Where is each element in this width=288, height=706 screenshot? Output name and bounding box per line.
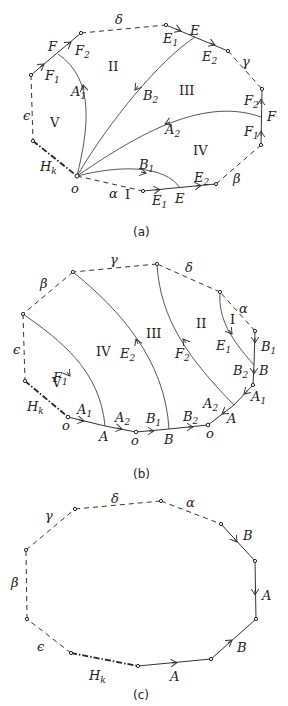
curve-b2 (77, 37, 195, 176)
curve-a2 (77, 111, 261, 176)
caption-b: (b) (133, 467, 150, 481)
vertex (136, 664, 139, 667)
diagram-b: I II III IV V α β γ δ ϵ Hk o o o A1 A A2… (13, 252, 276, 481)
region-label: I (125, 187, 130, 202)
edge-label: E2 (193, 170, 210, 187)
edge-label: B (242, 528, 253, 543)
vertex (214, 182, 217, 185)
delta-label: δ (111, 491, 119, 506)
edge-label: E (189, 23, 200, 38)
vertex (29, 73, 32, 76)
region-label: IV (96, 344, 111, 359)
arrow-f1 (67, 372, 70, 376)
arrow-f2 (183, 339, 186, 343)
vertex-o-label: o (62, 418, 70, 433)
edge-label: F (266, 109, 277, 124)
edge-label: A2 (164, 122, 180, 139)
f-edge-right (261, 89, 262, 145)
epsilon-label: ϵ (23, 108, 31, 123)
vertex (253, 559, 256, 562)
vertex (259, 143, 262, 146)
edge-label: B (258, 363, 269, 378)
region-label: III (179, 83, 194, 98)
edge-label: F2 (74, 43, 90, 60)
vertex (219, 522, 222, 525)
gamma-label: γ (110, 252, 118, 267)
hk-segment (71, 653, 138, 666)
beta-label: β (232, 171, 241, 186)
edge-label: F2 (174, 346, 190, 363)
vertex-o-label: o (71, 181, 79, 196)
edge-label: A1 (76, 402, 92, 419)
arrow-e1-bottom (155, 190, 160, 191)
vertex (21, 312, 24, 315)
arrow-a1 (79, 420, 84, 421)
beta-edge (23, 272, 73, 314)
epsilon-label: ϵ (13, 342, 21, 357)
arrow-b1 (141, 172, 146, 173)
arrow-b2 (135, 86, 138, 90)
edge-label: B1 (138, 157, 154, 174)
beta-edge (26, 550, 27, 619)
vertex (24, 548, 27, 551)
vertex (23, 379, 26, 382)
arrow-e2-bottom (196, 186, 201, 187)
edge-label: A2 (114, 410, 130, 427)
caption-c: (c) (133, 688, 149, 702)
delta-label: δ (185, 260, 193, 275)
region-label: V (49, 115, 60, 130)
edge-label: A (226, 411, 236, 426)
edge-label: B2 (142, 88, 159, 105)
vertex (69, 651, 72, 654)
delta-edge (81, 25, 166, 33)
edge-label: E2 (119, 346, 136, 363)
edge-label: B (236, 640, 247, 655)
vertex (218, 290, 221, 293)
vertex (226, 49, 229, 52)
edge-label: B1 (260, 339, 276, 356)
vertex (73, 507, 76, 510)
beta-label: β (39, 276, 48, 291)
edge-label: B (163, 432, 174, 447)
vertex-o (75, 174, 79, 178)
gamma-label: γ (45, 508, 53, 523)
vertex (159, 499, 162, 502)
alpha-label: α (239, 301, 248, 316)
edge-label: F1 (243, 124, 259, 141)
edge-label: F1 (44, 68, 60, 85)
vertex-o-label: o (206, 426, 214, 441)
diagram-c: α β γ δ ϵ Hk B A B A (c) (10, 491, 271, 702)
edge-label: F (47, 39, 58, 54)
vertex (141, 189, 144, 192)
region-label: IV (193, 143, 208, 158)
edge-label: F2 (243, 93, 259, 110)
beta-label: β (10, 575, 19, 590)
edge-label: E1 (162, 31, 178, 48)
arrow-a-bottom (172, 663, 177, 664)
edge-label: E1 (215, 338, 231, 355)
arrow-a1-right (244, 390, 248, 394)
epsilon-edge (31, 75, 33, 141)
edge-label: A (98, 429, 108, 444)
alpha-label: α (186, 495, 195, 510)
curve-a1 (58, 54, 86, 176)
edge-label: E2 (201, 49, 218, 66)
edge-label: B1 (145, 411, 161, 428)
gamma-label: γ (242, 54, 250, 69)
vertex (251, 383, 254, 386)
edge-label: F1 (52, 370, 68, 387)
edge-label: B2 (232, 363, 249, 380)
curve-b1 (77, 169, 180, 188)
edge-label: A (261, 588, 271, 603)
vertex (25, 617, 28, 620)
epsilon-label: ϵ (37, 639, 45, 654)
vertex (260, 87, 263, 90)
vertex (164, 23, 167, 26)
edge-label: A2 (202, 396, 218, 413)
alpha-label: α (109, 186, 118, 201)
vertex (254, 617, 257, 620)
hk-label: Hk (88, 668, 106, 685)
arrow-a2-right (222, 411, 226, 414)
delta-label: δ (115, 12, 123, 27)
b-edge-bottom (211, 619, 256, 659)
